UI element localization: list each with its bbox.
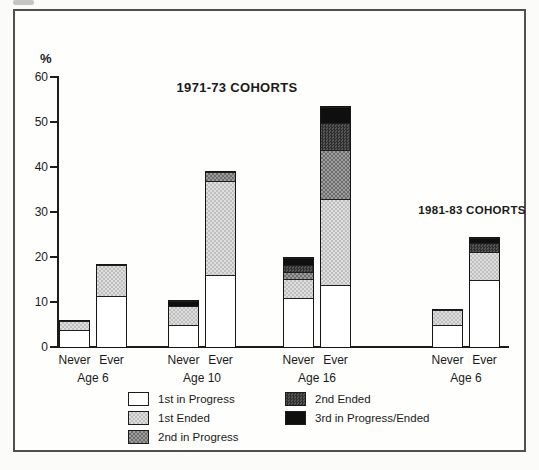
segment-1st-in-progress [206,275,235,347]
y-tick-10 [50,301,59,303]
legend-swatch-2nd-ended [285,392,306,406]
y-tick-40 [50,166,59,168]
legend-column-left: 1st in Progress 1st Ended 2nd in Progres… [128,391,285,448]
y-tick-label-60: 60 [20,70,48,84]
segment-2nd-in-progress [321,150,350,200]
y-tick-label-10: 10 [20,295,48,309]
legend-item-3rd-in-progress-ended: 3rd in Progress/Ended [285,410,429,425]
y-tick-label-20: 20 [20,250,48,264]
bar-1971-73-age-6-ever [96,264,127,348]
segment-2nd-ended [321,123,350,150]
segment-1st-in-progress [433,325,462,347]
legend-item-2nd-in-progress: 2nd in Progress [128,429,285,444]
segment-1st-ended [470,252,499,280]
segment-1st-ended [321,199,350,284]
chart-frame [13,9,526,452]
segment-1st-in-progress [321,285,350,347]
y-tick-label-50: 50 [20,115,48,129]
bar-1971-73-age-16-never [283,257,314,348]
legend-column-right: 2nd Ended 3rd in Progress/Ended [285,391,429,448]
legend-swatch-3rd-in-progress-ended [285,411,306,425]
legend-swatch-2nd-in-progress [128,430,149,444]
segment-1st-ended [97,265,126,296]
segment-1st-ended [433,310,462,325]
legend-label-1st-ended: 1st Ended [158,412,210,424]
legend: 1st in Progress 1st Ended 2nd in Progres… [128,391,429,448]
bar-1971-73-age-16-ever [320,106,351,348]
y-axis-unit-label: % [40,51,52,66]
legend-label-3rd-in-progress-ended: 3rd in Progress/Ended [315,412,429,424]
group-label-age-6-3: Age 6 [431,371,501,385]
bar-1971-73-age-10-never [168,300,199,348]
y-tick-20 [50,256,59,258]
group-label-age-10-1: Age 10 [167,371,237,385]
bar-1971-73-age-10-ever [205,171,236,348]
segment-1st-in-progress [60,330,89,347]
legend-item-2nd-ended: 2nd Ended [285,391,429,406]
y-tick-label-0: 0 [20,340,48,354]
segment-1st-in-progress [97,296,126,347]
y-tick-label-40: 40 [20,160,48,174]
segment-1st-ended [60,321,89,330]
legend-item-1st-ended: 1st Ended [128,410,285,425]
bar-1981-83-age-6-never [432,309,463,348]
segment-1st-ended [169,306,198,325]
legend-item-1st-in-progress: 1st in Progress [128,391,285,406]
cohort-title-1971-73: 1971-73 COHORTS [163,80,311,95]
y-tick-0 [50,346,59,348]
segment-1st-ended [284,279,313,299]
segment-2nd-in-progress [284,272,313,279]
bar-1981-83-age-6-ever [469,237,500,348]
x-label-ever-age-16-2: Ever [309,353,363,367]
legend-swatch-1st-in-progress [128,392,149,406]
group-label-age-6-0: Age 6 [58,371,128,385]
x-label-ever-age-10-1: Ever [194,353,248,367]
legend-label-2nd-in-progress: 2nd in Progress [158,431,239,443]
y-tick-30 [50,211,59,213]
y-tick-50 [50,121,59,123]
segment-1st-ended [206,181,235,275]
scan-artifact [13,0,34,5]
bar-1971-73-age-6-never [59,320,90,348]
segment-1st-in-progress [169,325,198,347]
segment-2nd-ended [284,265,313,272]
segment-1st-in-progress [470,280,499,347]
segment-2nd-ended [470,243,499,252]
segment-3rd-in-progress-ended [284,258,313,265]
group-label-age-16-2: Age 16 [282,371,352,385]
legend-label-1st-in-progress: 1st in Progress [158,393,235,405]
y-tick-60 [50,76,59,78]
legend-swatch-1st-ended [128,411,149,425]
segment-2nd-in-progress [206,172,235,181]
segment-1st-in-progress [284,298,313,347]
segment-3rd-in-progress-ended [321,107,350,123]
y-tick-label-30: 30 [20,205,48,219]
cohort-title-1981-83: 1981-83 COHORTS [418,204,526,216]
figure-canvas: % 0102030405060 1971-73 COHORTS 1981-83 … [0,0,539,470]
x-label-ever-age-6-0: Ever [85,353,139,367]
legend-label-2nd-ended: 2nd Ended [315,393,371,405]
x-label-ever-age-6-3: Ever [458,353,512,367]
